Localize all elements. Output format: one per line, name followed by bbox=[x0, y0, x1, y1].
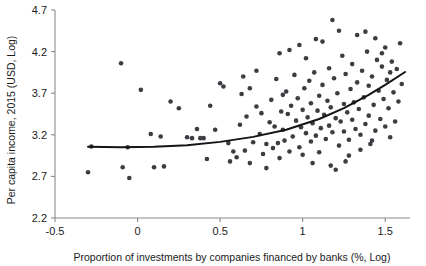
scatter-point bbox=[205, 157, 210, 162]
scatter-point bbox=[360, 68, 365, 73]
scatter-point bbox=[385, 78, 390, 83]
scatter-point bbox=[261, 152, 266, 157]
scatter-point bbox=[330, 18, 335, 23]
scatter-point bbox=[267, 120, 272, 125]
scatter-point bbox=[380, 64, 385, 69]
scatter-point bbox=[177, 106, 182, 111]
scatter-point bbox=[139, 88, 144, 93]
y-axis-title: Per capita income, 2015 (USD, Log) bbox=[5, 36, 17, 205]
scatter-point bbox=[342, 129, 347, 134]
scatter-point bbox=[248, 161, 253, 166]
scatter-point bbox=[148, 132, 153, 137]
scatter-point bbox=[383, 45, 388, 50]
scatter-point bbox=[314, 133, 319, 138]
scatter-point bbox=[201, 136, 206, 141]
scatter-point bbox=[358, 133, 363, 138]
scatter-point bbox=[363, 122, 368, 127]
scatter-point bbox=[312, 70, 317, 75]
scatter-point bbox=[213, 128, 218, 133]
scatter-point bbox=[366, 113, 371, 118]
scatter-point bbox=[381, 97, 386, 102]
scatter-point bbox=[162, 164, 167, 169]
x-tick-label: 1.5 bbox=[378, 225, 393, 237]
scatter-point bbox=[327, 66, 332, 71]
x-tick-label: -0.5 bbox=[46, 225, 65, 237]
scatter-point bbox=[330, 130, 335, 135]
scatter-point bbox=[320, 83, 325, 88]
scatter-point bbox=[168, 99, 173, 104]
scatter-point bbox=[295, 96, 300, 101]
scatter-point bbox=[274, 77, 279, 82]
scatter-point bbox=[309, 139, 314, 144]
scatter-point bbox=[277, 51, 282, 56]
scatter-point bbox=[287, 149, 292, 154]
scatter-point bbox=[290, 134, 295, 139]
scatter-point bbox=[119, 61, 124, 66]
scatter-point bbox=[208, 103, 213, 108]
scatter-point bbox=[302, 86, 307, 91]
scatter-point bbox=[272, 124, 277, 129]
scatter-point bbox=[323, 137, 328, 142]
scatter-point bbox=[234, 155, 239, 160]
x-tick-label: 0.5 bbox=[212, 225, 227, 237]
scatter-point bbox=[363, 29, 368, 34]
scatter-point bbox=[309, 101, 314, 106]
scatter-point bbox=[241, 74, 246, 79]
scatter-point bbox=[366, 83, 371, 88]
scatter-point bbox=[304, 56, 309, 61]
scatter-point bbox=[314, 37, 319, 42]
scatter-point bbox=[342, 102, 347, 107]
scatter-point bbox=[248, 86, 253, 91]
scatter-point bbox=[335, 91, 340, 96]
scatter-point bbox=[127, 176, 132, 181]
scatter-point bbox=[399, 82, 404, 87]
scatter-point bbox=[370, 138, 375, 143]
scatter-point bbox=[348, 87, 353, 92]
scatter-point bbox=[383, 124, 388, 129]
scatter-point bbox=[317, 93, 322, 98]
scatter-point bbox=[284, 89, 289, 94]
scatter-point bbox=[152, 165, 157, 170]
scatter-point bbox=[286, 112, 291, 117]
scatter-point bbox=[289, 103, 294, 108]
scatter-point bbox=[371, 103, 376, 108]
x-axis-title: Proportion of investments by companies f… bbox=[74, 251, 391, 263]
scatter-point bbox=[350, 118, 355, 123]
scatter-point bbox=[347, 153, 352, 158]
scatter-point bbox=[337, 143, 342, 148]
scatter-point bbox=[380, 51, 385, 56]
y-tick-label: 2.2 bbox=[32, 212, 47, 224]
scatter-point bbox=[307, 78, 312, 83]
scatter-point bbox=[254, 104, 259, 109]
scatter-point bbox=[276, 141, 281, 146]
y-tick-label: 2.7 bbox=[32, 170, 47, 182]
scatter-point bbox=[279, 109, 284, 114]
scatter-point bbox=[185, 135, 190, 140]
scatter-point bbox=[281, 93, 286, 98]
scatter-point bbox=[228, 159, 233, 164]
scatter-point bbox=[332, 76, 337, 81]
scatter-point bbox=[297, 145, 302, 150]
scatter-point bbox=[218, 81, 223, 86]
scatter-point bbox=[231, 149, 236, 154]
scatter-point bbox=[294, 118, 299, 123]
scatter-point bbox=[333, 116, 338, 121]
y-tick-label: 4.2 bbox=[32, 46, 47, 58]
scatter-point bbox=[343, 159, 348, 164]
scatter-point bbox=[325, 98, 330, 103]
scatter-point bbox=[340, 53, 345, 58]
scatter-point bbox=[300, 108, 305, 113]
scatter-plot-figure: 2.22.73.23.74.24.7-0.500.511.5 Per capit… bbox=[0, 0, 426, 266]
scatter-point bbox=[315, 108, 320, 113]
scatter-point bbox=[327, 123, 332, 128]
scatter-point bbox=[238, 123, 243, 128]
scatter-point bbox=[386, 106, 391, 111]
scatter-point bbox=[310, 161, 315, 166]
scatter-point bbox=[357, 107, 362, 112]
scatter-point bbox=[353, 127, 358, 132]
scatter-point bbox=[305, 115, 310, 120]
scatter-point bbox=[251, 140, 256, 145]
scatter-point bbox=[355, 80, 360, 85]
scatter-point bbox=[337, 29, 342, 34]
scatter-point bbox=[195, 127, 200, 132]
